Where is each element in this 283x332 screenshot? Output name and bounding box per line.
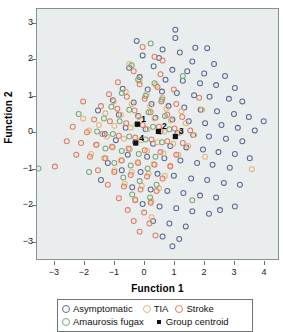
data-point: [178, 158, 183, 163]
data-point: [189, 176, 194, 181]
data-point: [107, 119, 112, 124]
circle-icon-amaurosis-fugax: [62, 318, 70, 326]
x-tick-label: 4: [256, 268, 272, 277]
chart-legend: Asymptomatic TIA Stroke Amaurosis fugax …: [57, 299, 253, 332]
data-point: [153, 233, 158, 238]
data-point: [223, 136, 228, 141]
data-point: [140, 53, 145, 58]
data-point: [109, 104, 114, 109]
data-point: [232, 151, 237, 156]
data-point: [105, 182, 110, 187]
x-tick-label: −2: [76, 268, 92, 277]
data-point: [64, 139, 69, 144]
data-point: [125, 152, 130, 157]
data-point: [131, 69, 136, 74]
y-axis-title: Function 2: [3, 83, 14, 153]
legend-item-stroke: Stroke: [175, 304, 213, 314]
data-point: [177, 237, 182, 242]
data-point: [124, 121, 129, 126]
data-point: [205, 178, 210, 183]
data-point: [155, 171, 160, 176]
data-point: [119, 149, 124, 154]
data-point: [153, 154, 158, 159]
data-point: [159, 89, 164, 94]
data-point: [180, 141, 185, 146]
data-point: [123, 125, 128, 130]
data-point: [240, 99, 245, 104]
data-point: [232, 204, 237, 209]
data-point: [52, 164, 57, 169]
data-point: [124, 94, 129, 99]
x-tick-label: −1: [106, 268, 122, 277]
data-point: [128, 125, 133, 130]
data-point: [174, 206, 179, 211]
data-point: [203, 121, 208, 126]
data-point: [145, 87, 150, 92]
data-point: [170, 67, 175, 72]
data-point: [167, 221, 172, 226]
data-point: [134, 38, 139, 43]
data-point: [92, 117, 97, 122]
data-point: [174, 101, 179, 106]
data-point: [210, 162, 215, 167]
data-point: [212, 62, 217, 67]
data-point: [149, 137, 154, 142]
data-point: [190, 209, 195, 214]
data-point: [160, 234, 165, 239]
data-point: [105, 161, 110, 166]
centroid-label: 4: [139, 133, 144, 143]
data-point: [173, 36, 178, 41]
data-point: [170, 244, 175, 249]
data-point: [158, 72, 163, 77]
x-tick-mark: [84, 261, 85, 265]
data-point: [237, 182, 242, 187]
centroid-label: 1: [141, 114, 146, 124]
data-point: [172, 126, 177, 131]
data-point: [115, 106, 120, 111]
plot-area: 1234: [36, 8, 279, 260]
data-point: [203, 154, 208, 159]
data-point: [181, 191, 186, 196]
data-point: [160, 47, 165, 52]
y-tick-label: −2: [17, 200, 33, 209]
x-tick-label: −3: [46, 268, 62, 277]
data-point: [145, 166, 150, 171]
data-point: [147, 221, 152, 226]
data-point: [198, 193, 203, 198]
x-tick-label: 1: [166, 268, 182, 277]
data-point: [190, 198, 195, 203]
legend-label-amaurosis-fugax: Amaurosis fugax: [73, 317, 144, 327]
square-icon-group-centroid: [157, 320, 161, 324]
data-point: [249, 167, 254, 172]
y-tick-label: 0: [17, 127, 33, 136]
data-point: [121, 136, 126, 141]
data-point: [103, 111, 108, 116]
data-point: [246, 114, 251, 119]
data-point: [221, 180, 226, 185]
data-point: [216, 150, 221, 155]
data-point: [201, 147, 206, 152]
data-point: [125, 208, 130, 213]
data-point: [185, 69, 190, 74]
data-point: [117, 119, 122, 124]
data-point: [128, 163, 133, 168]
data-point: [101, 116, 106, 121]
scatter-points-layer: 1234: [37, 9, 278, 259]
data-point: [110, 132, 115, 137]
x-tick-mark: [144, 261, 145, 265]
data-point: [140, 201, 145, 206]
data-point: [168, 118, 173, 123]
data-point: [112, 123, 117, 128]
data-point: [247, 156, 252, 161]
data-point: [227, 165, 232, 170]
data-point: [103, 146, 108, 151]
data-point: [252, 128, 257, 133]
data-point: [151, 124, 156, 129]
legend-item-group-centroid: Group centroid: [155, 317, 229, 327]
data-point: [116, 133, 121, 138]
data-point: [163, 77, 168, 82]
data-point: [171, 173, 176, 178]
data-point: [79, 141, 84, 146]
data-point: [154, 182, 159, 187]
